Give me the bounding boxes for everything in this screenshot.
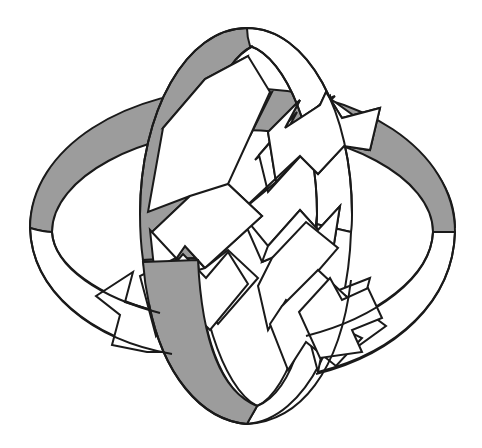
diagram-artboard: Two interlocking elliptical ribbon rings…	[0, 0, 482, 448]
interlocking-arrow-rings-illustration	[0, 0, 482, 448]
